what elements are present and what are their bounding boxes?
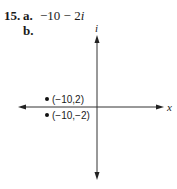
right-arrow-icon [156, 105, 164, 110]
x-axis-label: x [166, 101, 172, 113]
imaginary-axis: i [95, 22, 100, 180]
up-arrow-icon [95, 35, 100, 43]
point-label: (−10,2) [52, 94, 84, 105]
y-axis-label: i [95, 22, 98, 34]
point-marker [45, 97, 49, 101]
left-arrow-icon [18, 105, 26, 110]
point-1: (−10,2) [45, 94, 84, 105]
point-label: (−10,−2) [52, 110, 90, 121]
complex-plane-plot: x i (−10,2) (−10,−2) [0, 0, 177, 189]
real-axis: x [18, 101, 172, 113]
down-arrow-icon [95, 172, 100, 180]
point-marker [45, 113, 49, 117]
point-2: (−10,−2) [45, 110, 90, 121]
